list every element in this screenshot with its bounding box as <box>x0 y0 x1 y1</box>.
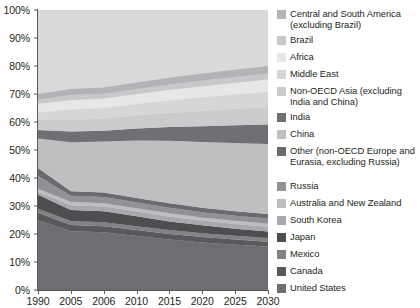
y-axis-tick-label: 100% <box>4 4 30 16</box>
x-axis-tick-label: 2015 <box>158 295 181 307</box>
y-axis-tick-mark <box>34 150 38 151</box>
x-axis: 19902005200620102015202020252030 <box>0 292 280 308</box>
y-axis-tick-label: 70% <box>9 88 30 100</box>
legend-item-label: Canada <box>290 265 323 276</box>
legend-swatch-icon <box>277 87 286 96</box>
legend-item-label: Central and South America (excluding Bra… <box>290 8 420 30</box>
legend-swatch-icon <box>277 53 286 62</box>
y-axis-tick-mark <box>34 206 38 207</box>
x-axis-tick-mark <box>71 290 72 294</box>
legend-item-label: Japan <box>290 231 315 242</box>
y-axis-tick-label: 20% <box>9 228 30 240</box>
legend-swatch-icon <box>277 216 286 225</box>
y-axis: 0%10%20%30%40%50%60%70%80%90%100% <box>0 0 34 308</box>
legend-item[interactable]: United States <box>277 282 420 293</box>
legend-swatch-icon <box>277 284 286 293</box>
legend-item-label: Mexico <box>290 248 319 259</box>
y-axis-tick-mark <box>34 122 38 123</box>
legend-item-label: Africa <box>290 51 314 62</box>
legend-item-label: Non-OECD Asia (excluding India and China… <box>290 85 420 107</box>
x-axis-tick-label: 2010 <box>125 295 148 307</box>
y-axis-tick-label: 80% <box>9 60 30 72</box>
legend-swatch-icon <box>277 199 286 208</box>
legend-item[interactable]: Russia <box>277 180 420 191</box>
legend-item[interactable]: Mexico <box>277 248 420 259</box>
legend-swatch-icon <box>277 70 286 79</box>
legend-swatch-icon <box>277 113 286 122</box>
legend-item[interactable]: Other (non-OECD Europe and Eurasia, excl… <box>277 145 420 167</box>
x-axis-tick-mark <box>235 290 236 294</box>
legend-item-label: United States <box>290 282 346 293</box>
legend-item[interactable]: Canada <box>277 265 420 276</box>
y-axis-tick-mark <box>34 66 38 67</box>
x-axis-tick-label: 2020 <box>191 295 214 307</box>
legend-item[interactable]: South Korea <box>277 214 420 225</box>
y-axis-tick-mark <box>34 10 38 11</box>
y-axis-tick-label: 90% <box>9 32 30 44</box>
legend-item-label: South Korea <box>290 214 342 225</box>
y-axis-tick-label: 60% <box>9 116 30 128</box>
x-axis-tick-mark <box>38 290 39 294</box>
y-axis-tick-label: 10% <box>9 256 30 268</box>
legend-item[interactable]: Middle East <box>277 68 420 79</box>
legend-item[interactable]: Africa <box>277 51 420 62</box>
legend-item-label: Middle East <box>290 68 338 79</box>
chart-figure: 0%10%20%30%40%50%60%70%80%90%100% 199020… <box>0 0 420 308</box>
y-axis-tick-mark <box>34 38 38 39</box>
x-axis-tick-label: 2006 <box>92 295 115 307</box>
y-axis-tick-mark <box>34 262 38 263</box>
legend-item[interactable]: Brazil <box>277 34 420 45</box>
legend-swatch-icon <box>277 147 286 156</box>
legend-item[interactable]: Australia and New Zealand <box>277 197 420 208</box>
legend-item[interactable]: Non-OECD Asia (excluding India and China… <box>277 85 420 107</box>
y-axis-tick-label: 30% <box>9 200 30 212</box>
y-axis-tick-label: 50% <box>9 144 30 156</box>
legend-swatch-icon <box>277 130 286 139</box>
y-axis-tick-mark <box>34 178 38 179</box>
legend-swatch-icon <box>277 182 286 191</box>
legend-item[interactable]: India <box>277 111 420 122</box>
stacked-area-series-group <box>38 10 268 290</box>
legend-swatch-icon <box>277 10 286 19</box>
legend-item[interactable]: China <box>277 128 420 139</box>
chart-legend: Central and South America (excluding Bra… <box>277 4 420 304</box>
x-axis-tick-mark <box>104 290 105 294</box>
x-axis-tick-mark <box>137 290 138 294</box>
legend-item[interactable]: Central and South America (excluding Bra… <box>277 8 420 30</box>
legend-swatch-icon <box>277 267 286 276</box>
legend-item-label: China <box>290 128 314 139</box>
y-axis-tick-mark <box>34 94 38 95</box>
legend-swatch-icon <box>277 36 286 45</box>
x-axis-tick-mark <box>169 290 170 294</box>
y-axis-tick-mark <box>34 234 38 235</box>
x-axis-tick-mark <box>202 290 203 294</box>
plot-area <box>38 10 268 290</box>
legend-swatch-icon <box>277 233 286 242</box>
legend-item-label: Russia <box>290 180 318 191</box>
y-axis-tick-label: 40% <box>9 172 30 184</box>
legend-swatch-icon <box>277 250 286 259</box>
legend-item-label: Brazil <box>290 34 313 45</box>
x-axis-tick-label: 1990 <box>27 295 50 307</box>
x-axis-tick-mark <box>268 290 269 294</box>
legend-item-label: Australia and New Zealand <box>290 197 401 208</box>
x-axis-tick-label: 2025 <box>224 295 247 307</box>
legend-item-label: India <box>290 111 310 122</box>
x-axis-tick-label: 2005 <box>59 295 82 307</box>
legend-item[interactable]: Japan <box>277 231 420 242</box>
legend-item-label: Other (non-OECD Europe and Eurasia, excl… <box>290 145 420 167</box>
